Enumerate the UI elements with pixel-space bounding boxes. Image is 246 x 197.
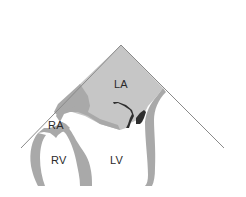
label-left-ventricle: LV: [110, 155, 123, 166]
label-right-ventricle: RV: [51, 155, 66, 166]
label-left-atrium: LA: [114, 79, 128, 90]
label-right-atrium: RA: [48, 120, 64, 131]
heart-diagram: [0, 0, 246, 197]
rv-free-wall: [30, 133, 46, 186]
